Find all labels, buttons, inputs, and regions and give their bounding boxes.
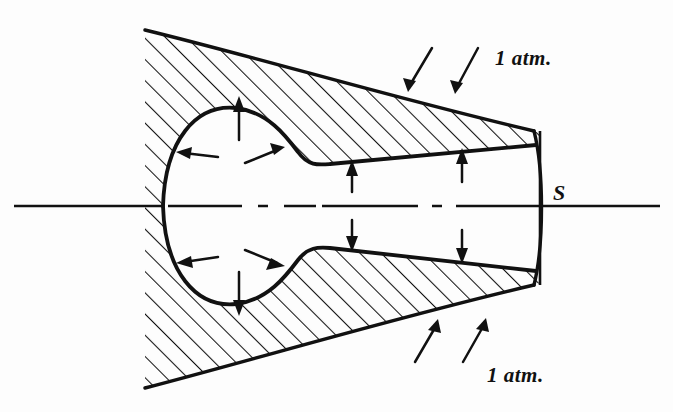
pressure-section-figure: 1 atm. 1 atm. S — [0, 0, 673, 412]
section-plane-label: S — [553, 180, 565, 205]
pressure-label-top: 1 atm. — [495, 46, 552, 70]
pressure-label-bottom: 1 atm. — [487, 363, 544, 387]
diagram-canvas: 1 atm. 1 atm. S — [0, 0, 673, 412]
